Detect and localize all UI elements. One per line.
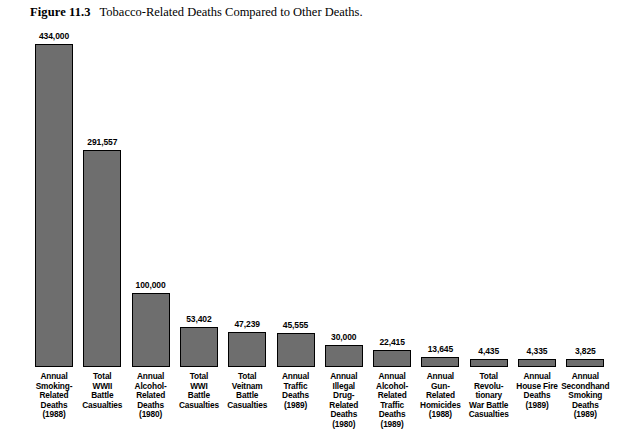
- bar-category-label-line: (1989): [559, 410, 611, 420]
- bar-category-label: AnnualIllegalDrug-RelatedDeaths(1980): [318, 372, 370, 430]
- bar-value-label: 291,557: [78, 137, 126, 147]
- bar: [518, 359, 556, 367]
- bar-value-label: 100,000: [127, 280, 175, 290]
- bar-value-label: 434,000: [30, 31, 78, 41]
- bar-group: 30,000AnnualIllegalDrug-RelatedDeaths(19…: [320, 0, 368, 439]
- bar-group: 4,335AnnualHouse FireDeaths(1989): [513, 0, 561, 439]
- bar-category-label: TotalRevolu-tionaryWar BattleCasualties: [463, 372, 515, 420]
- bar-category-label: AnnualAlcohol-RelatedDeaths(1980): [125, 372, 177, 420]
- bar-value-label: 4,435: [465, 346, 513, 356]
- bar: [83, 150, 121, 367]
- bar-group: 22,415AnnualAlcohol-RelatedTrafficDeaths…: [368, 0, 416, 439]
- bar-category-label-line: (1980): [318, 420, 370, 430]
- bar: [35, 44, 73, 367]
- bar-category-label: AnnualHouse FireDeaths(1989): [511, 372, 563, 410]
- bar: [421, 357, 459, 367]
- bar-category-label-line: Casualties: [173, 401, 225, 411]
- bar-group: 13,645AnnualGun-RelatedHomicides(1988): [416, 0, 464, 439]
- bar-chart-plot-area: 434,000AnnualSmoking-RelatedDeaths(1988)…: [0, 0, 626, 439]
- bar-value-label: 47,239: [223, 319, 271, 329]
- bar-value-label: 4,335: [513, 346, 561, 356]
- bar: [277, 333, 315, 367]
- bar-group: 434,000AnnualSmoking-RelatedDeaths(1988): [30, 0, 78, 439]
- bar-category-label-line: (1980): [125, 410, 177, 420]
- bar-category-label: TotalWWIBattleCasualties: [173, 372, 225, 410]
- bar-category-label-line: Casualties: [221, 401, 273, 411]
- bar-category-label-line: (1989): [511, 401, 563, 411]
- bar-group: 4,435TotalRevolu-tionaryWar BattleCasual…: [465, 0, 513, 439]
- bar: [132, 293, 170, 367]
- bar-category-label: AnnualTrafficDeaths(1989): [270, 372, 322, 410]
- bar: [325, 345, 363, 367]
- bar: [228, 332, 266, 367]
- bar-category-label-line: Casualties: [463, 410, 515, 420]
- bar: [373, 350, 411, 367]
- bar-category-label-line: (1988): [28, 410, 80, 420]
- bar: [566, 359, 604, 367]
- bar-category-label: AnnualAlcohol-RelatedTrafficDeaths(1989): [366, 372, 418, 430]
- bar-category-label-line: Casualties: [76, 401, 128, 411]
- bar-group: 291,557TotalWWIIBattleCasualties: [78, 0, 126, 439]
- bar-value-label: 13,645: [416, 344, 464, 354]
- bar-category-label-line: (1988): [414, 410, 466, 420]
- bar-category-label: AnnualSecondhandSmokingDeaths(1989): [559, 372, 611, 420]
- bar-value-label: 22,415: [368, 337, 416, 347]
- bar-category-label: AnnualGun-RelatedHomicides(1988): [414, 372, 466, 420]
- bar: [470, 359, 508, 367]
- bar-value-label: 3,825: [561, 346, 609, 356]
- bar-value-label: 45,555: [272, 320, 320, 330]
- bar-category-label-line: (1989): [366, 420, 418, 430]
- bar-category-label: TotalWWIIBattleCasualties: [76, 372, 128, 410]
- bar-value-label: 30,000: [320, 332, 368, 342]
- bar-group: 45,555AnnualTrafficDeaths(1989): [272, 0, 320, 439]
- bar-category-label: TotalVeitnamBattleCasualties: [221, 372, 273, 410]
- bar-category-label-line: (1989): [270, 401, 322, 411]
- bar-group: 53,402TotalWWIBattleCasualties: [175, 0, 223, 439]
- bar-group: 100,000AnnualAlcohol-RelatedDeaths(1980): [127, 0, 175, 439]
- bar: [180, 327, 218, 367]
- bar-category-label: AnnualSmoking-RelatedDeaths(1988): [28, 372, 80, 420]
- bar-value-label: 53,402: [175, 314, 223, 324]
- bar-group: 47,239TotalVeitnamBattleCasualties: [223, 0, 271, 439]
- bar-group: 3,825AnnualSecondhandSmokingDeaths(1989): [561, 0, 609, 439]
